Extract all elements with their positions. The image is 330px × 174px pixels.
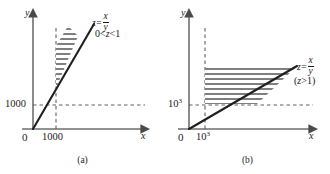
- caption-b: (b): [165, 156, 330, 166]
- condition-label-a: 0<z<1: [95, 29, 120, 39]
- y-axis-label-a: y: [25, 8, 29, 18]
- x-tick-exponent-b: 3: [207, 130, 211, 138]
- curve-label-b-lead: z: [297, 62, 301, 72]
- y-tick-label-b: 103: [168, 99, 182, 110]
- condition-a-pre: 0<: [95, 28, 106, 39]
- figure-root: y x 0 1000 1000 z = x y 0<z<1 (a): [0, 0, 330, 174]
- condition-label-b: (z>1): [294, 76, 315, 86]
- x-tick-label-b: 103: [196, 132, 210, 143]
- x-axis-label-b: x: [309, 131, 313, 141]
- caption-a: (a): [0, 156, 165, 166]
- condition-a-post: <1: [110, 28, 121, 39]
- x-tick-base-b: 10: [196, 131, 207, 142]
- curve-label-a-equals: =: [96, 18, 101, 28]
- origin-label-b: 0: [178, 132, 184, 143]
- y-tick-label-a: 1000: [5, 99, 26, 110]
- x-tick-label-a: 1000: [42, 132, 63, 143]
- condition-b-post: >1): [301, 75, 315, 86]
- hatched-region-b: [201, 62, 301, 110]
- origin-label-a: 0: [22, 132, 28, 143]
- panel-a: y x 0 1000 1000 z = x y 0<z<1 (a): [0, 0, 165, 174]
- curve-label-b-fraction: x y: [308, 56, 314, 77]
- curve-label-a-numerator: x: [103, 12, 109, 22]
- panel-b-graphic: [165, 0, 330, 174]
- panel-a-graphic: [0, 0, 165, 174]
- curve-label-b: z = x y: [297, 56, 314, 77]
- y-tick-base-b: 10: [168, 98, 179, 109]
- curve-label-b-equals: =: [301, 62, 306, 72]
- curve-label-b-numerator: x: [308, 56, 314, 66]
- y-tick-exponent-b: 3: [179, 97, 183, 105]
- panel-b: y x 0 103 103 z = x y (z>1) (b): [165, 0, 330, 174]
- curve-label-a-lead: z: [92, 18, 96, 28]
- x-axis-label-a: x: [141, 131, 145, 141]
- y-axis-label-b: y: [181, 8, 185, 18]
